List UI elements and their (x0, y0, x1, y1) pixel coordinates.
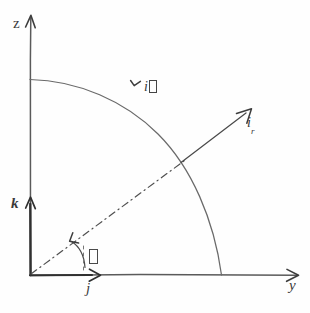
i-theta-tick-icon (131, 81, 141, 86)
radial-dash-dot-line (31, 160, 186, 275)
theta-angle-symbol-tofu-glyph (89, 249, 98, 264)
theta-angle-arrowhead (70, 233, 79, 243)
i-theta-base: i (144, 79, 148, 94)
z-axis-label: z (13, 16, 20, 31)
vector-diagram-svg (0, 0, 310, 313)
quarter-circle-arc (30, 80, 222, 276)
j-vector-label: j (86, 281, 90, 296)
diagram-canvas: z k j y ir i (0, 0, 310, 313)
i-r-vector-label: ir (247, 116, 254, 133)
i-theta-vector-label: i (144, 78, 156, 94)
i-r-subscript: r (251, 126, 255, 136)
theta-angle-arc (70, 233, 85, 270)
k-vector-label: k (11, 196, 19, 211)
y-axis-label: y (289, 278, 296, 293)
i-r-vector (181, 109, 252, 163)
i-theta-subscript-tofu-glyph (149, 80, 157, 93)
k-vector (26, 197, 36, 275)
